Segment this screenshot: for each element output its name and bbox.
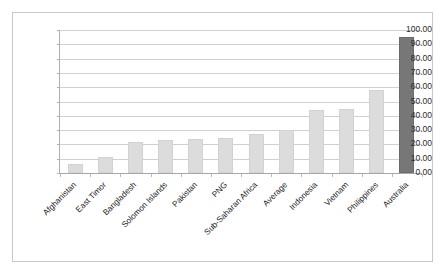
y-axis-tick-mark [57, 116, 60, 117]
x-axis-tick-mark [392, 174, 393, 177]
gridline [60, 30, 422, 31]
chart-frame: AfghanistanEast TimorBangladeshSolomon I… [12, 12, 433, 262]
y-axis-tick-label: 40.00 [388, 111, 432, 120]
bar-pakistan[interactable] [188, 139, 203, 173]
y-axis-tick-label: 100.00 [388, 25, 432, 34]
y-axis-tick-label: 0.00 [388, 168, 432, 177]
x-axis-tick-mark [90, 174, 91, 177]
bar-indonesia[interactable] [309, 110, 324, 173]
y-axis-tick-mark [57, 144, 60, 145]
y-axis-tick-mark [57, 73, 60, 74]
x-axis-tick-mark [241, 174, 242, 177]
y-axis-tick-mark [57, 130, 60, 131]
bar-afghanistan[interactable] [68, 164, 83, 173]
x-axis-tick-mark [362, 174, 363, 177]
bar-solomon-islands[interactable] [158, 140, 173, 173]
y-axis-tick-label: 60.00 [388, 82, 432, 91]
y-axis-tick-label: 50.00 [388, 97, 432, 106]
bar-east-timor[interactable] [98, 157, 113, 173]
gridline [60, 59, 422, 60]
y-axis-tick-label: 90.00 [388, 39, 432, 48]
gridline [60, 116, 422, 117]
bar-philippines[interactable] [369, 90, 384, 173]
y-axis-tick-mark [57, 30, 60, 31]
y-axis-tick-mark [57, 44, 60, 45]
x-axis-tick-mark [332, 174, 333, 177]
y-axis-tick-label: 20.00 [388, 139, 432, 148]
x-axis-label-afghanistan: Afghanistan [0, 180, 78, 278]
x-axis-tick-mark [120, 174, 121, 177]
plot-area [60, 30, 422, 173]
gridline [60, 130, 422, 131]
x-axis-tick-mark [211, 174, 212, 177]
gridline [60, 73, 422, 74]
bar-vietnam[interactable] [339, 109, 354, 173]
gridline [60, 44, 422, 45]
x-axis-tick-mark [271, 174, 272, 177]
gridline [60, 159, 422, 160]
y-axis-tick-mark [57, 102, 60, 103]
y-axis-tick-mark [57, 159, 60, 160]
gridline [60, 87, 422, 88]
x-axis-tick-mark [181, 174, 182, 177]
y-axis-tick-mark [57, 59, 60, 60]
bar-png[interactable] [218, 138, 233, 173]
y-axis-tick-label: 80.00 [388, 54, 432, 63]
y-axis-tick-label: 70.00 [388, 68, 432, 77]
x-axis-tick-mark [301, 174, 302, 177]
y-axis-tick-label: 30.00 [388, 125, 432, 134]
y-axis-tick-label: 10.00 [388, 154, 432, 163]
gridline [60, 102, 422, 103]
x-axis-tick-mark [151, 174, 152, 177]
bar-sub-saharan-africa[interactable] [249, 134, 264, 173]
bar-average[interactable] [279, 130, 294, 173]
gridline [60, 144, 422, 145]
y-axis-tick-mark [57, 87, 60, 88]
x-axis-tick-mark [422, 174, 423, 177]
bar-bangladesh[interactable] [128, 142, 143, 173]
x-axis-tick-mark [60, 174, 61, 177]
